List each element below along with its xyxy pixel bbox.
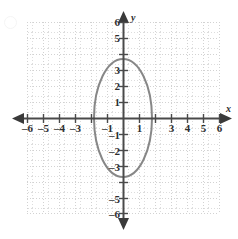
y-tick-label-pos3: 3	[106, 65, 120, 76]
x-tick-label-pos3: 3	[164, 123, 179, 134]
x-tick-label-neg6: –6	[19, 123, 36, 134]
y-tick-label-neg1: –1	[102, 130, 120, 141]
y-tick-label-pos5: 5	[106, 33, 120, 44]
y-tick-label-neg6: –6	[102, 209, 120, 220]
y-tick-label-neg2: –2	[102, 146, 120, 157]
x-tick-label-pos1: 1	[132, 123, 147, 134]
x-tick-label-pos5: 5	[196, 123, 211, 134]
x-tick-label-neg4: –4	[51, 123, 68, 134]
x-tick-label-neg5: –5	[35, 123, 52, 134]
x-tick-label-pos4: 4	[180, 123, 195, 134]
y-tick-label-pos2: 2	[106, 81, 120, 92]
y-tick-label-pos6: 6	[106, 17, 120, 28]
y-tick-label-pos1: 1	[106, 97, 120, 108]
graph-figure: –6 –5 –4 –3 –1 1 3 4 5 6 6 5 3 2 1 –1 –2…	[0, 0, 238, 239]
x-axis-label: x	[226, 104, 231, 114]
x-tick-label-pos6: 6	[212, 123, 227, 134]
y-axis-label: y	[131, 13, 135, 23]
y-tick-label-neg3: –3	[102, 162, 120, 173]
y-tick-label-neg5: –5	[102, 194, 120, 205]
x-tick-label-neg3: –3	[67, 123, 84, 134]
